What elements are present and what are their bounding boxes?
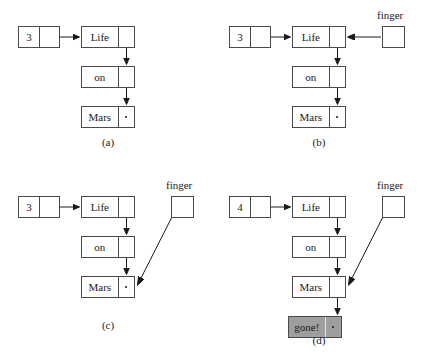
list-node-value: Life (82, 197, 118, 217)
list-node-value: Life (293, 27, 329, 47)
panel-b: 3 Life on Mars finger (b) (211, 0, 422, 178)
null-pointer-dot-icon (332, 326, 334, 328)
list-node-value: Mars (293, 107, 329, 127)
list-node-value: Mars (82, 277, 118, 297)
list-node-pointer-cell (329, 237, 345, 257)
list-node-on: on (292, 236, 346, 258)
list-node-value: Mars (82, 107, 118, 127)
list-node-pointer-cell (329, 67, 345, 87)
list-node-pointer-cell (118, 277, 134, 297)
list-node-on: on (81, 66, 135, 88)
list-node-on: on (292, 66, 346, 88)
count-node-value: 3 (19, 197, 39, 217)
finger-label: finger (377, 180, 403, 191)
panel-label-c: (c) (88, 320, 128, 331)
list-node-mars: Mars (292, 276, 346, 298)
linked-list-figure: 3 Life on Mars (a) (0, 0, 423, 355)
count-node-value: 3 (19, 27, 39, 47)
list-node-value: on (293, 67, 329, 87)
list-node-life: Life (292, 26, 346, 48)
count-node: 3 (229, 26, 271, 48)
list-node-pointer-cell (118, 67, 134, 87)
list-node-value: Life (82, 27, 118, 47)
finger-box (382, 196, 405, 218)
count-node: 3 (18, 196, 60, 218)
null-pointer-dot-icon (336, 116, 338, 118)
count-node: 4 (229, 196, 271, 218)
list-node-value: on (293, 237, 329, 257)
list-node-on: on (81, 236, 135, 258)
count-node-pointer-cell (39, 197, 59, 217)
list-node-pointer-cell (118, 197, 134, 217)
count-node-pointer-cell (39, 27, 59, 47)
panel-a: 3 Life on Mars (a) (0, 0, 211, 178)
null-pointer-dot-icon (125, 286, 127, 288)
list-node-pointer-cell (118, 27, 134, 47)
list-node-pointer-cell (118, 237, 134, 257)
list-node-life: Life (81, 196, 135, 218)
list-node-pointer-cell (329, 27, 345, 47)
finger-label: finger (166, 180, 192, 191)
list-node-mars: Mars (292, 106, 346, 128)
list-node-life: Life (81, 26, 135, 48)
list-node-value: on (82, 67, 118, 87)
list-node-mars: Mars (81, 276, 135, 298)
list-node-life: Life (292, 196, 346, 218)
panel-label-a: (a) (88, 137, 128, 148)
null-pointer-dot-icon (125, 116, 127, 118)
list-node-value: Life (293, 197, 329, 217)
list-node-pointer-cell (325, 317, 341, 337)
finger-box (382, 26, 405, 48)
list-node-pointer-cell (329, 107, 345, 127)
count-node-pointer-cell (250, 197, 270, 217)
count-node-value: 4 (230, 197, 250, 217)
count-node: 3 (18, 26, 60, 48)
panel-c: 3 Life on Mars finger (c) (0, 170, 211, 348)
finger-box (171, 196, 194, 218)
list-node-value: on (82, 237, 118, 257)
list-node-pointer-cell (329, 197, 345, 217)
finger-label: finger (377, 10, 403, 21)
panel-label-b: (b) (299, 137, 339, 148)
list-node-value: Mars (293, 277, 329, 297)
count-node-pointer-cell (250, 27, 270, 47)
panel-label-d: (d) (299, 335, 339, 346)
list-node-pointer-cell (118, 107, 134, 127)
count-node-value: 3 (230, 27, 250, 47)
list-node-mars: Mars (81, 106, 135, 128)
panel-d: 4 Life on Mars gone! finger (d) (211, 170, 422, 348)
list-node-pointer-cell (329, 277, 345, 297)
